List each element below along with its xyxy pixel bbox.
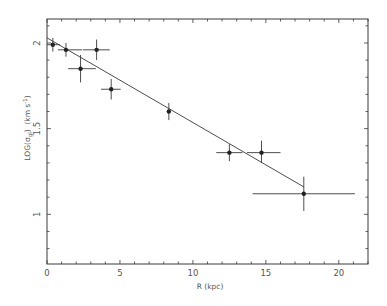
fit-line-segment	[47, 38, 304, 187]
data-point	[247, 141, 281, 163]
x-tick-label: 15	[260, 268, 271, 278]
x-tick-label: 10	[187, 268, 198, 278]
y-tick-label: 1.5	[32, 122, 42, 136]
x-tick-label: 0	[44, 268, 49, 278]
point-marker	[64, 48, 68, 52]
data-points	[47, 38, 355, 211]
y-tick-label: 1	[32, 212, 42, 217]
axis-ticks	[47, 19, 368, 264]
data-point	[216, 144, 242, 161]
fit-line	[47, 38, 304, 187]
point-marker	[78, 66, 82, 70]
data-point	[83, 40, 110, 61]
y-tick-labels: 11.52	[32, 40, 42, 217]
data-point	[68, 55, 96, 82]
x-axis-label: R (kpc)	[197, 282, 224, 291]
plot-frame	[47, 19, 368, 264]
data-point	[253, 177, 355, 211]
x-tick-label: 20	[333, 268, 344, 278]
point-marker	[302, 192, 306, 196]
point-marker	[227, 150, 231, 154]
y-tick-label: 2	[32, 40, 42, 45]
data-point	[101, 79, 121, 100]
chart: 05101520 11.52 R (kpc) LOG(σgl) (km s-1)	[0, 0, 387, 306]
point-marker	[167, 109, 171, 113]
point-marker	[259, 150, 263, 154]
point-marker	[109, 87, 113, 91]
x-tick-labels: 05101520	[44, 268, 344, 278]
point-marker	[51, 42, 55, 46]
x-tick-label: 5	[117, 268, 122, 278]
point-marker	[94, 48, 98, 52]
plot-border	[47, 19, 368, 264]
data-point	[167, 103, 171, 120]
data-point	[58, 43, 82, 57]
